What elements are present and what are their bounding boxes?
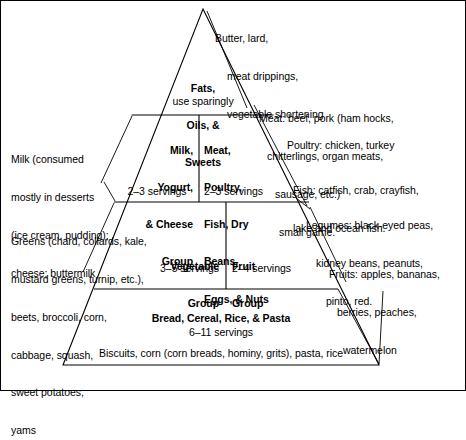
tier-milk-servings: 2–3 servings xyxy=(121,185,193,197)
callout-fats-line-2: meat drippings, xyxy=(227,70,395,83)
callout-fruits-line-2: berries, peaches, xyxy=(337,306,466,319)
callout-vegetables-line-2: mustard greens, turnip, etc.), xyxy=(11,273,181,286)
callout-legumes-line-1: Legumes: black-eyed peas, xyxy=(306,219,466,232)
callout-vegetables-line-4: cabbage, squash, xyxy=(11,349,181,362)
callout-fruits: Fruits: apples, bananas, berries, peache… xyxy=(329,243,466,382)
callout-fats-line-1: Butter, lard, xyxy=(215,32,395,45)
callout-vegetables-line-5: sweet potatoes, xyxy=(11,386,181,399)
callout-poultry: Poultry: chicken, turkey xyxy=(287,139,466,152)
callout-fruits-line-1: Fruits: apples, bananas, xyxy=(329,268,466,281)
callout-vegetables-line-6: yams xyxy=(11,424,181,437)
callout-fruits-line-3: watermelon xyxy=(343,344,466,357)
tier-fruit-title-line-2: Group xyxy=(232,297,312,309)
callout-meat-line-1: Meat: beef, pork (ham hocks, xyxy=(259,112,466,125)
callout-vegetables-line-1: Greens (chard, collards, kale, xyxy=(11,235,181,248)
callout-milk-line-2: mostly in desserts xyxy=(11,191,131,204)
callout-milk-line-1: Milk (consumed xyxy=(11,153,131,166)
callout-vegetables-line-3: beets, broccoli, corn, xyxy=(11,311,181,324)
callout-vegetables: Greens (chard, collards, kale, mustard g… xyxy=(11,210,181,440)
